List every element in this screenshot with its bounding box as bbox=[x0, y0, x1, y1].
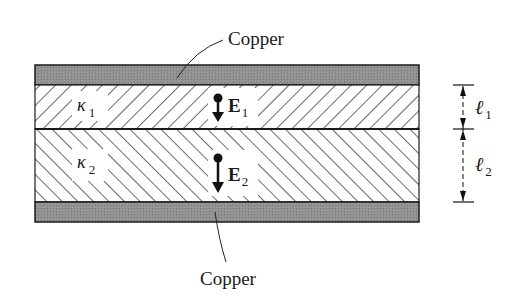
bottom-copper-label: Copper bbox=[200, 268, 257, 289]
l2-label: ℓ2 bbox=[475, 153, 492, 179]
capacitor-diagram: κ1 κ2 E1 E2 Copper Copper bbox=[0, 0, 514, 296]
thickness-dimension-lines bbox=[453, 85, 474, 202]
l1-label: ℓ1 bbox=[475, 96, 492, 122]
bottom-copper-plate bbox=[35, 202, 419, 222]
top-copper-plate bbox=[35, 65, 419, 85]
top-copper-label: Copper bbox=[228, 28, 285, 49]
